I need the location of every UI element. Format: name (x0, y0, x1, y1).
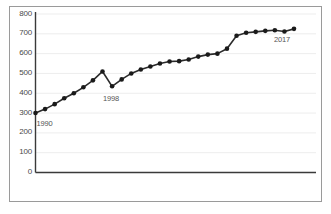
data-point (244, 31, 249, 36)
line-chart-svg (0, 0, 331, 214)
data-markers (33, 27, 296, 116)
data-point (100, 69, 105, 74)
annotation-label: 1990 (37, 120, 53, 128)
annotation-label: 2017 (274, 36, 290, 44)
chart-figure: 8007006005004003002001000 199019982017 (0, 0, 331, 214)
data-point (72, 91, 77, 96)
data-point (158, 61, 163, 66)
data-point (52, 102, 57, 107)
data-point (234, 33, 239, 38)
data-point (196, 54, 201, 59)
data-point (139, 67, 144, 72)
y-tick-label: 600 (10, 49, 32, 57)
data-point (119, 77, 124, 82)
y-tick-label: 300 (10, 109, 32, 117)
y-tick-label: 100 (10, 148, 32, 156)
y-tick-label: 0 (10, 168, 32, 176)
data-point (148, 64, 153, 69)
data-point (62, 96, 67, 101)
y-tick-label: 400 (10, 89, 32, 97)
y-tick-label: 800 (10, 10, 32, 18)
data-line (36, 29, 295, 113)
data-point (129, 71, 134, 76)
data-point (33, 111, 38, 116)
data-point (273, 28, 278, 33)
data-point (292, 27, 297, 32)
plot-area: 8007006005004003002001000 199019982017 (0, 0, 331, 214)
y-tick-label: 200 (10, 128, 32, 136)
y-tick-label: 500 (10, 69, 32, 77)
data-point (253, 30, 258, 35)
data-point (110, 84, 115, 89)
data-point (167, 59, 172, 64)
data-point (81, 85, 86, 90)
data-point (177, 59, 182, 64)
annotation-label: 1998 (103, 95, 119, 103)
data-point (186, 57, 191, 62)
data-point (263, 29, 268, 34)
data-point (91, 78, 96, 83)
data-point (43, 107, 48, 112)
data-point (282, 29, 287, 34)
data-point (215, 51, 220, 56)
data-point (225, 46, 230, 51)
data-point (206, 52, 211, 57)
y-tick-label: 700 (10, 29, 32, 37)
